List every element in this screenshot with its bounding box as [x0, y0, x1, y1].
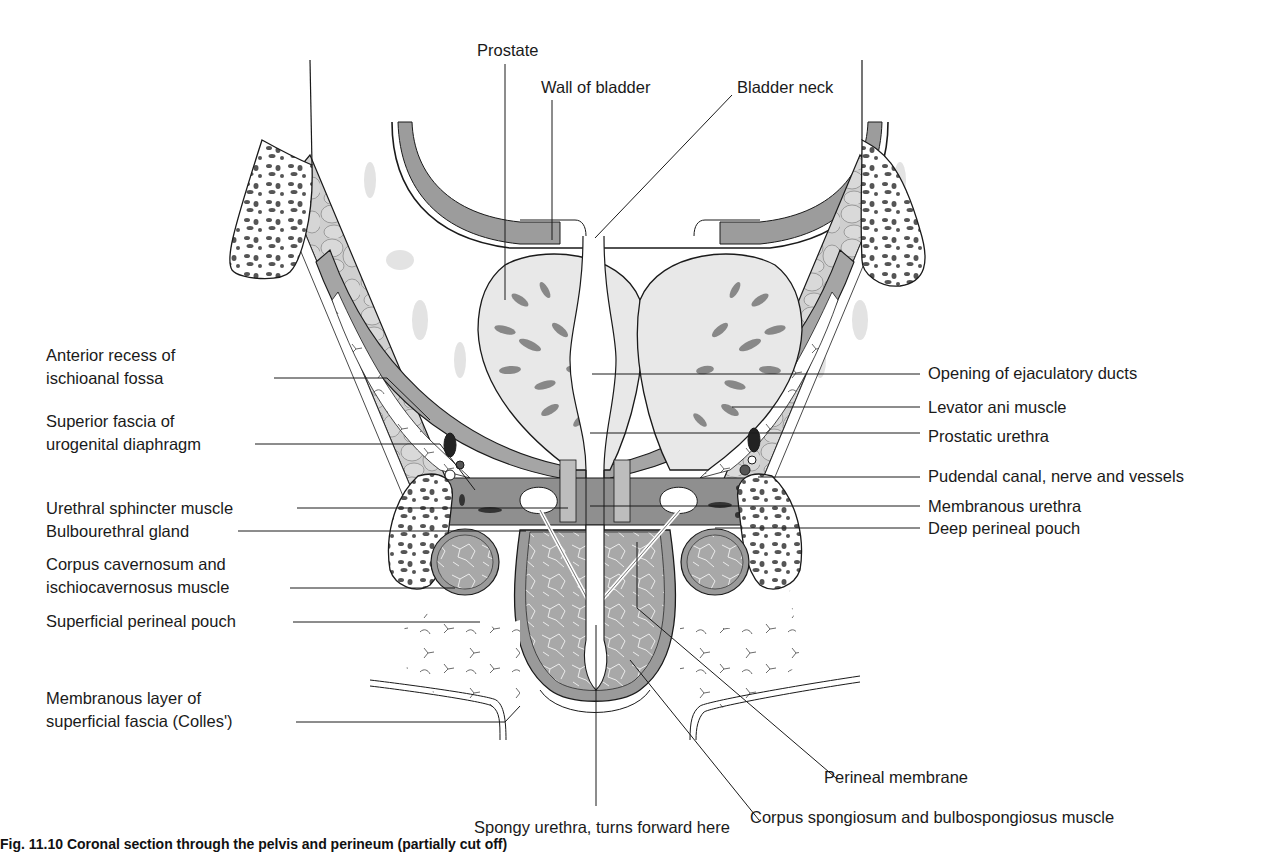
label-superior-fascia-line1: Superior fascia of	[46, 411, 174, 432]
figure-caption: Fig. 11.10 Coronal section through the p…	[0, 836, 507, 852]
label-bulbourethral-gland: Bulbourethral gland	[46, 521, 189, 542]
label-superficial-perineal-pouch: Superficial perineal pouch	[46, 611, 236, 632]
label-perineal-membrane: Perineal membrane	[824, 767, 968, 788]
label-membranous-layer-line2: superficial fascia (Colles')	[46, 711, 233, 732]
label-levator-ani: Levator ani muscle	[928, 397, 1067, 418]
label-anterior-recess-line1: Anterior recess of	[46, 345, 175, 366]
label-prostate: Prostate	[477, 40, 538, 61]
label-urethral-sphincter: Urethral sphincter muscle	[46, 498, 233, 519]
label-membranous-urethra: Membranous urethra	[928, 496, 1081, 517]
label-wall-of-bladder: Wall of bladder	[541, 77, 650, 98]
label-membranous-layer-line1: Membranous layer of	[46, 688, 201, 709]
label-corpus-spongiosum: Corpus spongiosum and bulbospongiosus mu…	[750, 807, 1114, 828]
label-corpus-cavernosum-line1: Corpus cavernosum and	[46, 554, 226, 575]
label-anterior-recess-line2: ischioanal fossa	[46, 368, 163, 389]
label-corpus-cavernosum-line2: ischiocavernosus muscle	[46, 577, 229, 598]
label-opening-ejaculatory-ducts: Opening of ejaculatory ducts	[928, 363, 1137, 384]
label-superior-fascia-line2: urogenital diaphragm	[46, 434, 201, 455]
label-prostatic-urethra: Prostatic urethra	[928, 426, 1049, 447]
label-bladder-neck: Bladder neck	[737, 77, 833, 98]
label-spongy-urethra: Spongy urethra, turns forward here	[474, 817, 730, 838]
label-pudendal-canal: Pudendal canal, nerve and vessels	[928, 466, 1184, 487]
label-deep-perineal-pouch: Deep perineal pouch	[928, 518, 1080, 539]
